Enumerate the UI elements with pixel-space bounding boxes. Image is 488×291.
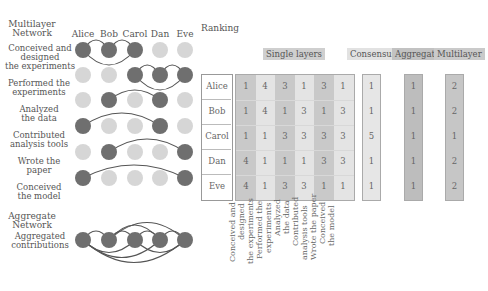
nodes (75, 42, 193, 248)
cell: 1 (333, 81, 353, 91)
consensus-value: 1 (362, 81, 381, 91)
row-name-dan: Dan (201, 156, 233, 166)
aggregate-value: 1 (404, 156, 423, 166)
cell: 1 (275, 156, 295, 166)
col-label-line: analysis tools (300, 205, 309, 260)
col-label-line: Performed the (255, 201, 264, 259)
cell: 3 (314, 156, 334, 166)
consensus-value: 1 (362, 181, 381, 191)
col-label-line: the experiments (246, 198, 255, 264)
divider (202, 99, 231, 100)
cell: 1 (314, 106, 334, 116)
multilayer-value: 2 (445, 81, 464, 91)
cell: 1 (255, 156, 275, 166)
row-name-alice: Alice (201, 81, 233, 91)
consensus-value: 5 (362, 131, 381, 141)
multilayer-network-graph (0, 0, 200, 291)
divider (202, 149, 231, 150)
col-label-line: experiments (264, 203, 273, 253)
cell: 3 (333, 156, 353, 166)
row-name-eve: Eve (201, 181, 233, 191)
cell: 1 (275, 106, 295, 116)
row-name-carol: Carol (201, 131, 233, 141)
cell: 3 (275, 81, 295, 91)
multilayer-value: 2 (445, 156, 464, 166)
cell: 1 (255, 181, 275, 191)
cell: 3 (314, 131, 334, 141)
cell: 1 (236, 106, 256, 116)
col-label-line: Contributed (291, 197, 300, 246)
cell: 3 (294, 181, 314, 191)
ranking-title: Ranking (201, 24, 239, 33)
aggregate-value: 1 (404, 106, 423, 116)
cell: 3 (333, 106, 353, 116)
col-label-line: Analyzed (273, 199, 282, 236)
cell: 1 (236, 131, 256, 141)
cell: 4 (255, 106, 275, 116)
divider (202, 124, 231, 125)
band-single-layers: Single layers (263, 48, 325, 60)
cell: 1 (333, 181, 353, 191)
cell: 4 (236, 156, 256, 166)
multilayer-value: 1 (445, 131, 464, 141)
col-label-line: the model (327, 206, 336, 246)
cell: 3 (294, 131, 314, 141)
cell: 1 (255, 131, 275, 141)
cell: 3 (275, 131, 295, 141)
col-label-line: Conceived and (228, 202, 237, 262)
aggregate-value: 1 (404, 181, 423, 191)
cell: 3 (275, 181, 295, 191)
col-label-line: Wrote the paper (309, 194, 318, 260)
row-name-bob: Bob (201, 106, 233, 116)
consensus-value: 1 (362, 106, 381, 116)
cell: 3 (294, 106, 314, 116)
col-label-line: the data (282, 200, 291, 234)
cell: 3 (314, 81, 334, 91)
consensus-value: 1 (362, 156, 381, 166)
cell: 4 (255, 81, 275, 91)
cell: 4 (236, 181, 256, 191)
multilayer-value: 2 (445, 181, 464, 191)
cell: 3 (333, 131, 353, 141)
aggregate-value: 1 (404, 81, 423, 91)
multilayer-value: 2 (445, 106, 464, 116)
divider (202, 174, 231, 175)
cell: 1 (236, 81, 256, 91)
cell: 1 (314, 181, 334, 191)
cell: 1 (294, 81, 314, 91)
aggregate-value: 1 (404, 131, 423, 141)
cell: 1 (294, 156, 314, 166)
col-label-line: designed (237, 203, 246, 240)
band-multilayer: Multilayer (434, 48, 485, 60)
col-label-line: Conceived (318, 202, 327, 244)
